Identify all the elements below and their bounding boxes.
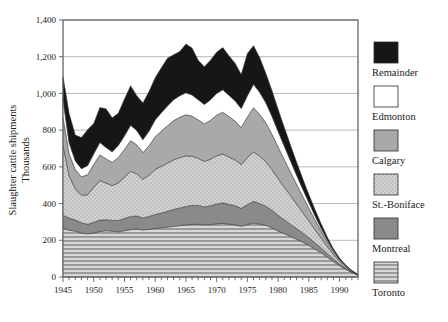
legend-swatch-toronto <box>374 262 398 283</box>
legend-label-montreal: Montreal <box>372 243 411 254</box>
x-axis-tick-label: 1985 <box>300 285 319 295</box>
x-axis-tick-labels: 1945195019551960196519701975198019851990 <box>54 285 349 295</box>
legend-swatch-edmonton <box>374 86 398 107</box>
y-axis-tick-label: 1,400 <box>36 15 57 25</box>
y-axis-tick-label: 1,000 <box>36 89 57 99</box>
y-axis-tick-labels: 02004006008001,0001,2001,400 <box>36 15 57 282</box>
y-axis-tick-label: 800 <box>43 125 57 135</box>
y-axis-tick-label: 200 <box>43 235 57 245</box>
y-axis-tick-label: 1,200 <box>36 52 57 62</box>
x-axis-tick-label: 1945 <box>54 285 73 295</box>
chart-legend: RemainderEdmontonCalgarySt.-BonifaceMont… <box>372 42 425 298</box>
y-axis-title-line2: Thousands <box>20 137 31 183</box>
legend-swatch-remainder <box>374 42 398 63</box>
legend-label-st-boniface: St.-Boniface <box>372 199 425 210</box>
x-axis-tick-label: 1955 <box>115 285 134 295</box>
x-axis-tick-label: 1965 <box>177 285 196 295</box>
legend-label-remainder: Remainder <box>372 67 419 78</box>
legend-swatch-calgary <box>374 130 398 151</box>
x-axis-tick-label: 1960 <box>146 285 165 295</box>
legend-label-edmonton: Edmonton <box>372 111 416 122</box>
stacked-area-chart: 02004006008001,0001,2001,400 19451950195… <box>0 0 448 322</box>
legend-label-calgary: Calgary <box>372 155 406 166</box>
x-axis-tick-label: 1990 <box>331 285 350 295</box>
x-axis-tick-label: 1975 <box>238 285 257 295</box>
legend-swatch-st-boniface <box>374 174 398 195</box>
legend-label-toronto: Toronto <box>372 287 405 298</box>
y-axis-tick-label: 600 <box>43 162 57 172</box>
y-axis-tick-label: 0 <box>52 272 57 282</box>
x-axis-tick-label: 1980 <box>269 285 288 295</box>
y-axis-title: Slaughter cattle shipments Thousands <box>7 105 31 216</box>
y-axis-tick-label: 400 <box>43 199 57 209</box>
x-axis-tick-label: 1970 <box>208 285 227 295</box>
y-axis-title-line1: Slaughter cattle shipments <box>7 105 18 216</box>
legend-swatch-montreal <box>374 218 398 239</box>
x-axis-tick-label: 1950 <box>85 285 104 295</box>
area-series-group <box>63 44 358 277</box>
